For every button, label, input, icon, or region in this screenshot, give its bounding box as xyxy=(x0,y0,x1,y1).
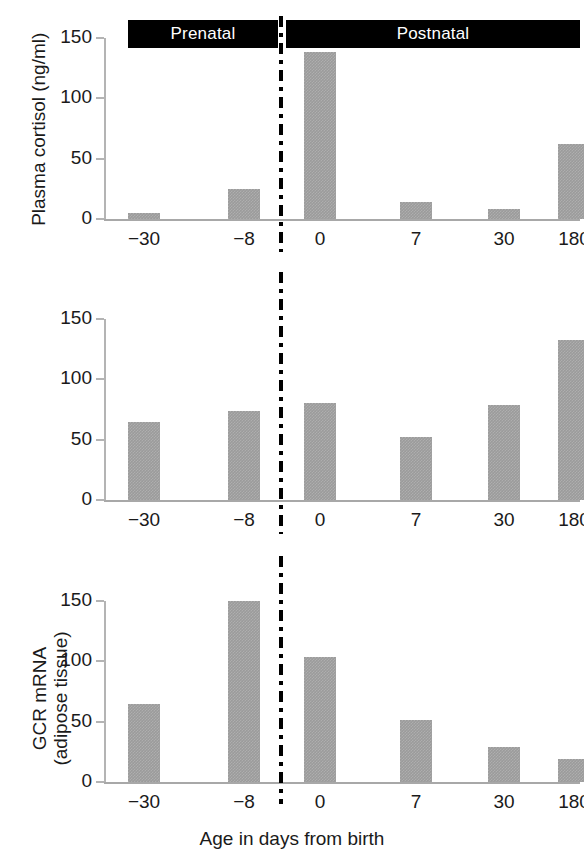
x-tick-label-lung-2: 0 xyxy=(315,791,326,813)
y-tick-cortisol-150 xyxy=(96,37,104,39)
y-tick-label-adipose-50: 50 xyxy=(71,428,92,450)
y-axis-spine-lung xyxy=(104,601,106,782)
x-tick-label-adipose-5: 180 xyxy=(558,509,584,531)
y-tick-label-adipose-0: 0 xyxy=(81,488,92,510)
x-tick-label-cortisol-2: 0 xyxy=(315,228,326,250)
x-axis-baseline-lung xyxy=(104,782,580,784)
x-axis-title: Age in days from birth xyxy=(0,828,584,850)
bar-adipose-4 xyxy=(488,405,520,500)
birth-divider-lung xyxy=(279,556,283,804)
y-axis-spine-cortisol xyxy=(104,38,106,219)
y-axis-title-cortisol: Plasma cortisol (ng/ml) xyxy=(29,14,50,244)
x-tick-label-cortisol-5: 180 xyxy=(558,228,584,250)
y-tick-label-adipose-100: 100 xyxy=(60,368,92,390)
x-tick-label-lung-3: 7 xyxy=(411,791,422,813)
bar-lung-1 xyxy=(228,601,260,782)
bar-cortisol-2 xyxy=(304,52,336,219)
y-axis-title-cortisol-line1: Plasma cortisol (ng/ml) xyxy=(28,33,49,226)
x-tick-label-adipose-0: −30 xyxy=(128,509,160,531)
y-tick-cortisol-0 xyxy=(96,218,104,220)
y-tick-adipose-0 xyxy=(96,499,104,501)
y-tick-lung-150 xyxy=(96,600,104,602)
y-tick-label-lung-100: 100 xyxy=(60,650,92,672)
x-tick-label-lung-4: 30 xyxy=(493,791,514,813)
bar-cortisol-3 xyxy=(400,202,432,219)
bar-lung-0 xyxy=(128,704,160,782)
plot-area-cortisol: 050100150−30−80730180 xyxy=(104,38,580,219)
y-axis-spine-adipose xyxy=(104,319,106,500)
y-tick-lung-0 xyxy=(96,781,104,783)
y-tick-lung-50 xyxy=(96,721,104,723)
bar-cortisol-5 xyxy=(558,144,584,219)
y-tick-label-lung-50: 50 xyxy=(71,710,92,732)
x-tick-label-adipose-3: 7 xyxy=(411,509,422,531)
bar-adipose-5 xyxy=(558,340,584,500)
y-tick-lung-100 xyxy=(96,660,104,662)
plot-area-adipose: 050100150−30−80730180 xyxy=(104,319,580,500)
y-tick-label-cortisol-50: 50 xyxy=(71,147,92,169)
bar-cortisol-1 xyxy=(228,189,260,219)
bar-cortisol-4 xyxy=(488,209,520,219)
y-tick-label-adipose-150: 150 xyxy=(60,307,92,329)
y-tick-label-cortisol-150: 150 xyxy=(60,26,92,48)
x-tick-label-adipose-2: 0 xyxy=(315,509,326,531)
bar-adipose-3 xyxy=(400,437,432,500)
x-axis-baseline-adipose xyxy=(104,500,580,502)
x-tick-label-adipose-4: 30 xyxy=(493,509,514,531)
y-tick-label-lung-0: 0 xyxy=(81,770,92,792)
bar-lung-4 xyxy=(488,747,520,782)
y-tick-label-lung-150: 150 xyxy=(60,589,92,611)
bar-adipose-0 xyxy=(128,422,160,500)
bar-lung-5 xyxy=(558,759,584,782)
figure-root: Prenatal Postnatal Plasma cortisol (ng/m… xyxy=(0,0,584,858)
x-axis-baseline-cortisol xyxy=(104,219,580,221)
bar-cortisol-0 xyxy=(128,213,160,219)
bar-adipose-2 xyxy=(304,403,336,500)
y-tick-cortisol-50 xyxy=(96,158,104,160)
y-tick-adipose-100 xyxy=(96,378,104,380)
x-tick-label-lung-0: −30 xyxy=(128,791,160,813)
y-tick-adipose-50 xyxy=(96,439,104,441)
x-tick-label-adipose-1: −8 xyxy=(233,509,255,531)
x-tick-label-cortisol-0: −30 xyxy=(128,228,160,250)
plot-area-lung: 050100150−30−80730180 xyxy=(104,601,580,782)
x-tick-label-lung-5: 180 xyxy=(558,791,584,813)
bar-adipose-1 xyxy=(228,411,260,500)
birth-divider-cortisol xyxy=(279,16,283,252)
x-tick-label-lung-1: −8 xyxy=(233,791,255,813)
birth-divider-adipose xyxy=(279,272,283,534)
bar-lung-2 xyxy=(304,657,336,782)
x-tick-label-cortisol-4: 30 xyxy=(493,228,514,250)
y-tick-cortisol-100 xyxy=(96,97,104,99)
x-tick-label-cortisol-3: 7 xyxy=(411,228,422,250)
y-tick-label-cortisol-0: 0 xyxy=(81,207,92,229)
bar-lung-3 xyxy=(400,720,432,782)
y-tick-adipose-150 xyxy=(96,318,104,320)
y-tick-label-cortisol-100: 100 xyxy=(60,87,92,109)
x-tick-label-cortisol-1: −8 xyxy=(233,228,255,250)
